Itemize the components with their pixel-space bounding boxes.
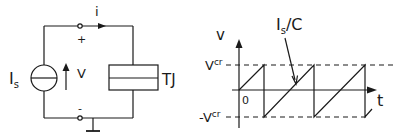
y-axis-arrow-icon [236, 39, 243, 48]
upper-level-label: Vcr [205, 57, 223, 73]
slope-label: Is/C [276, 15, 303, 36]
source-label: Is [9, 69, 19, 90]
slope-pointer [285, 38, 295, 80]
x-axis-arrow-icon [367, 87, 377, 94]
slope-label-rest: /C [286, 15, 303, 34]
y-axis-label: v [216, 26, 225, 44]
minus-label: - [78, 102, 82, 115]
current-label: i [95, 4, 99, 19]
top-terminal [78, 24, 82, 28]
current-arrow-icon [98, 23, 106, 29]
voltage-arrow-head [63, 63, 70, 71]
circuit-schematic [31, 23, 158, 131]
upper-level-sup: cr [214, 57, 223, 67]
lower-level-main: -V [199, 110, 212, 125]
voltage-time-graph [226, 38, 395, 128]
sawtooth-waveform [239, 65, 372, 117]
bottom-terminal [78, 116, 82, 120]
diagram-canvas: i + - Is V TJ v t 0 Vcr -Vcr Is/C [0, 0, 412, 137]
origin-label: 0 [242, 94, 249, 107]
voltage-label: V [77, 66, 86, 81]
lower-level-sup: cr [212, 109, 221, 119]
lower-level-label: -Vcr [199, 109, 221, 125]
junction-label: TJ [161, 71, 176, 89]
x-axis-label: t [377, 91, 383, 110]
plus-label: + [77, 33, 86, 46]
upper-level-main: V [205, 58, 214, 73]
source-label-sub: s [14, 79, 19, 90]
